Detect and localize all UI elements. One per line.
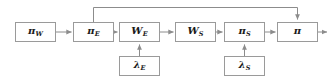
node-w-e-label: WE xyxy=(131,26,147,37)
node-pi-s: πS xyxy=(224,22,265,42)
node-w-e: WE xyxy=(119,22,160,42)
node-pi-s-label: πS xyxy=(238,26,250,37)
node-pi-e: πE xyxy=(73,22,114,42)
node-lambda-e: λE xyxy=(119,56,160,76)
node-pi-output: π xyxy=(277,22,318,42)
node-w-s-label: WS xyxy=(187,26,203,37)
node-pi-w-label: πW xyxy=(28,26,43,37)
node-pi-output-label: π xyxy=(294,26,302,37)
node-lambda-e-label: λE xyxy=(133,60,145,71)
node-pi-e-label: πE xyxy=(87,26,99,37)
node-w-s: WS xyxy=(175,22,216,42)
node-pi-w: πW xyxy=(15,22,56,42)
block-diagram: πW πE WE WS πS π λE λS xyxy=(0,0,334,80)
node-lambda-s: λS xyxy=(224,56,265,76)
node-lambda-s-label: λS xyxy=(239,60,251,71)
edge-feedback-pie-to-piout xyxy=(94,8,298,23)
